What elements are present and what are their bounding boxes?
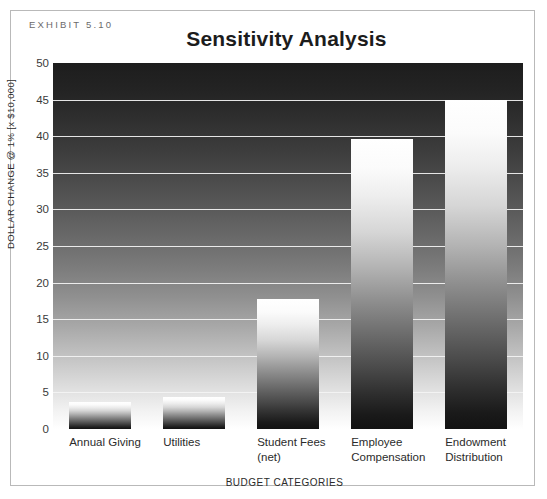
- x-label-line: Annual Giving: [69, 435, 163, 450]
- x-label-line: Endowment: [445, 435, 539, 450]
- y-tick-label: 45: [19, 94, 49, 106]
- x-label-line: Distribution: [445, 450, 539, 465]
- y-tick-label: 25: [19, 240, 49, 252]
- x-category-label: EndowmentDistribution: [445, 435, 539, 465]
- x-category-label: Student Fees(net): [257, 435, 351, 465]
- x-category-label: EmployeeCompensation: [351, 435, 445, 465]
- y-tick-label: 30: [19, 203, 49, 215]
- x-label-line: Student Fees: [257, 435, 351, 450]
- x-label-line: Utilities: [163, 435, 257, 450]
- chart-title: Sensitivity Analysis: [11, 27, 534, 51]
- y-tick-label: 10: [19, 350, 49, 362]
- x-label-line: Employee: [351, 435, 445, 450]
- x-label-line: (net): [257, 450, 351, 465]
- bar: [69, 402, 131, 429]
- y-tick-label: 15: [19, 313, 49, 325]
- y-tick-label: 35: [19, 167, 49, 179]
- bar: [163, 397, 225, 429]
- y-tick-label: 50: [19, 57, 49, 69]
- y-tick-label: 40: [19, 130, 49, 142]
- bar: [351, 139, 413, 429]
- y-tick-label: 5: [19, 386, 49, 398]
- bar: [445, 100, 507, 429]
- x-axis-title: BUDGET CATEGORIES: [11, 477, 534, 488]
- y-tick-label: 20: [19, 277, 49, 289]
- x-axis-category-labels: Annual GivingUtilitiesStudent Fees(net)E…: [53, 435, 523, 475]
- x-label-line: Compensation: [351, 450, 445, 465]
- exhibit-figure: EXHIBIT 5.10 Sensitivity Analysis DOLLAR…: [10, 10, 535, 486]
- x-category-label: Annual Giving: [69, 435, 163, 450]
- y-tick-label: 0: [19, 423, 49, 435]
- plot-area: [53, 63, 523, 429]
- y-axis-ticks: 50454035302520151050: [15, 63, 49, 429]
- x-category-label: Utilities: [163, 435, 257, 450]
- bar: [257, 299, 319, 429]
